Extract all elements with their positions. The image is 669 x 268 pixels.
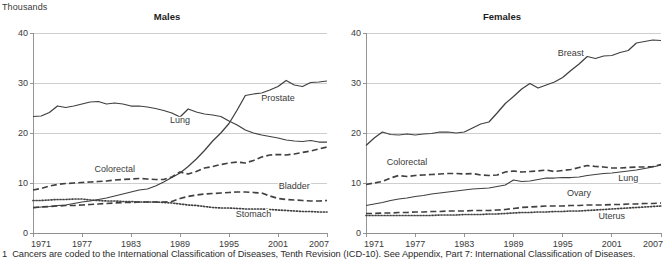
series-label-lung: Lung xyxy=(618,173,638,183)
y-tick-label: 10 xyxy=(18,178,28,188)
panel-males: Males 0102030401971197719831989199520012… xyxy=(0,0,334,248)
x-tick-label: 1995 xyxy=(553,239,573,248)
series-label-breast: Breast xyxy=(558,48,585,58)
y-tick-label: 10 xyxy=(351,178,361,188)
footnote: 1Cancers are coded to the International … xyxy=(2,249,667,259)
series-label-ovary: Ovary xyxy=(567,188,592,198)
x-tick-label: 1983 xyxy=(121,239,141,248)
footnote-text: Cancers are coded to the International C… xyxy=(12,249,635,259)
x-tick-label: 1971 xyxy=(31,239,51,248)
chart-plot-females: 0102030401971197719831989199520012007Bre… xyxy=(335,0,669,248)
y-tick-label: 20 xyxy=(351,128,361,138)
y-tick-label: 0 xyxy=(356,228,361,238)
x-tick-label: 2001 xyxy=(268,239,288,248)
y-tick-label: 20 xyxy=(18,128,28,138)
x-tick-label: 1977 xyxy=(72,239,92,248)
x-tick-label: 2007 xyxy=(309,239,329,248)
y-tick-label: 30 xyxy=(18,78,28,88)
panel-females: Females 01020304019711977198319891995200… xyxy=(335,0,669,248)
y-tick-label: 30 xyxy=(351,78,361,88)
x-tick-label: 2001 xyxy=(602,239,622,248)
footnote-number: 1 xyxy=(2,249,7,259)
series-label-lung: Lung xyxy=(170,115,190,125)
series-label-colorectal: Colorectal xyxy=(387,157,428,167)
y-tick-label: 0 xyxy=(23,228,28,238)
x-tick-label: 2007 xyxy=(643,239,663,248)
y-tick-label: 40 xyxy=(18,28,28,38)
series-label-colorectal: Colorectal xyxy=(94,164,135,174)
series-line-colorectal xyxy=(366,165,661,185)
series-line-stomach xyxy=(33,199,327,212)
x-tick-label: 1989 xyxy=(503,239,523,248)
y-tick-label: 40 xyxy=(351,28,361,38)
series-label-stomach: Stomach xyxy=(236,209,272,219)
x-tick-label: 1971 xyxy=(364,239,384,248)
series-label-uterus: Uterus xyxy=(599,211,626,221)
x-tick-label: 1983 xyxy=(454,239,474,248)
series-label-bladder: Bladder xyxy=(279,181,310,191)
series-label-prostate: Prostate xyxy=(261,93,295,103)
figure-container: Thousands Males 010203040197119771983198… xyxy=(0,0,669,268)
chart-plot-males: 0102030401971197719831989199520012007Lun… xyxy=(0,0,334,248)
series-line-breast xyxy=(366,40,661,146)
x-tick-label: 1995 xyxy=(219,239,239,248)
x-tick-label: 1977 xyxy=(405,239,425,248)
series-line-bladder xyxy=(33,192,327,208)
x-tick-label: 1989 xyxy=(170,239,190,248)
